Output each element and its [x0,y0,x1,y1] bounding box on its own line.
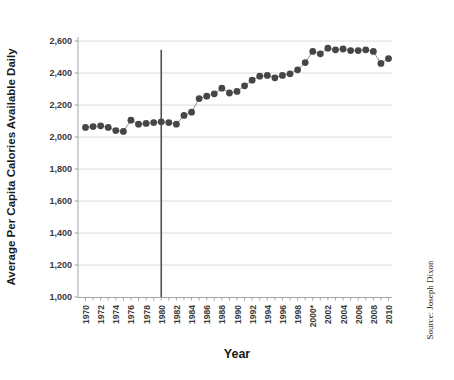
x-tick-label: 1992 [248,305,258,324]
data-point [340,46,347,53]
data-point [90,123,97,130]
x-tick-label: 1978 [142,305,152,324]
x-tick-label: 1984 [187,305,197,324]
x-tick-label: 2002 [323,305,333,324]
data-point [196,95,203,102]
y-tick-label: 2,400 [49,68,72,78]
data-point [158,118,165,125]
data-point [181,112,188,119]
data-point [370,48,377,55]
data-point [264,72,271,79]
data-point [165,119,172,126]
x-tick-label: 1996 [278,305,288,324]
calories-line-chart: 1,0001,2001,4001,6001,8002,0002,2002,400… [0,0,454,380]
data-point [309,48,316,55]
data-point [82,124,89,131]
x-tick-label: 1982 [172,305,182,324]
data-point [135,121,142,128]
x-tick-label: 2010 [384,305,394,324]
source-credit: Source: Joseph Dixon [425,260,435,339]
x-tick-label: 2004 [339,305,349,324]
data-points [82,45,392,135]
data-point [362,46,369,53]
data-point [150,119,157,126]
x-axis-title: Year [224,347,251,361]
data-point [317,50,324,57]
data-point [271,74,278,81]
chart-figure: 1,0001,2001,4001,6001,8002,0002,2002,400… [0,0,454,380]
data-point [188,109,195,116]
y-tick-label: 1,000 [49,292,72,302]
x-tick-label: 1974 [111,305,121,324]
y-tick-label: 1,600 [49,196,72,206]
data-point [105,124,112,131]
data-point [347,47,354,54]
x-tick-label: 1998 [293,305,303,324]
data-point [128,117,135,124]
x-tick-label: 1990 [233,305,243,324]
y-tick-label: 1,200 [49,260,72,270]
data-point [226,90,233,97]
data-point [294,66,301,73]
data-point [378,60,385,67]
data-point [302,59,309,66]
data-point [325,45,332,52]
y-axis-title: Average Per Capita Calories Available Da… [5,48,17,286]
data-point [256,73,263,80]
x-tick-label: 1988 [217,305,227,324]
x-tick-label: 1972 [96,305,106,324]
y-tick-label: 2,600 [49,36,72,46]
data-point [385,55,392,62]
data-point [173,121,180,128]
data-point [143,120,150,127]
y-tick-label: 1,800 [49,164,72,174]
data-point [120,128,127,135]
gridlines [78,41,392,265]
data-point [218,85,225,92]
y-tick-label: 2,200 [49,100,72,110]
x-tick-label: 2008 [369,305,379,324]
data-point [287,70,294,77]
data-point [249,77,256,84]
data-point [234,88,241,95]
x-tick-label: 1994 [263,305,273,324]
data-point [241,82,248,89]
data-point [279,72,286,79]
tick-labels: 1,0001,2001,4001,6001,8002,0002,2002,400… [49,36,394,327]
data-point [203,93,210,100]
data-point [211,90,218,97]
data-point [97,122,104,129]
y-tick-label: 1,400 [49,228,72,238]
x-tick-label: 1970 [81,305,91,324]
x-tick-label: 1976 [126,305,136,324]
x-tick-label: 1986 [202,305,212,324]
data-point [332,46,339,53]
y-tick-label: 2,000 [49,132,72,142]
x-tick-label: 2000* [308,304,318,327]
data-point [112,127,119,134]
x-tick-label: 1980 [157,305,167,324]
data-point [355,47,362,54]
x-tick-label: 2006 [354,305,364,324]
